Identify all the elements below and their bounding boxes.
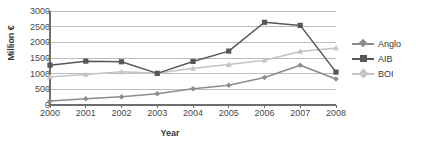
data-point-aib bbox=[333, 70, 338, 75]
data-point-anglo bbox=[226, 82, 232, 88]
x-axis-title: Year bbox=[0, 128, 340, 138]
line-chart-figure: Million € 050010001500200025003000 20002… bbox=[0, 0, 423, 143]
data-point-anglo bbox=[262, 75, 268, 81]
data-point-aib bbox=[226, 49, 231, 54]
data-point-anglo bbox=[119, 94, 125, 100]
x-tick-label: 2003 bbox=[147, 108, 167, 118]
legend-key-aib bbox=[352, 53, 374, 64]
data-point-anglo bbox=[333, 76, 339, 82]
legend-item-anglo[interactable]: Anglo bbox=[352, 36, 422, 51]
x-tick-label: 2002 bbox=[111, 108, 131, 118]
data-point-aib bbox=[155, 71, 160, 76]
data-point-aib bbox=[119, 59, 124, 64]
x-tick-label: 2008 bbox=[326, 108, 346, 118]
data-point-anglo bbox=[83, 96, 89, 102]
data-point-anglo bbox=[47, 98, 53, 104]
x-tick-label: 2000 bbox=[40, 108, 60, 118]
legend-item-boi[interactable]: BOI bbox=[352, 66, 422, 81]
legend-item-aib[interactable]: AIB bbox=[352, 51, 422, 66]
x-tick-label: 2007 bbox=[290, 108, 310, 118]
data-point-aib bbox=[83, 59, 88, 64]
x-tick-label: 2005 bbox=[219, 108, 239, 118]
x-tick-label: 2006 bbox=[254, 108, 274, 118]
data-point-anglo bbox=[297, 62, 303, 68]
data-point-aib bbox=[190, 59, 195, 64]
data-point-anglo bbox=[190, 86, 196, 92]
legend-label-aib: AIB bbox=[378, 54, 393, 64]
x-tick-label: 2001 bbox=[76, 108, 96, 118]
data-point-aib bbox=[47, 63, 52, 68]
x-tick-label: 2004 bbox=[183, 108, 203, 118]
legend-label-anglo: Anglo bbox=[378, 39, 401, 49]
legend-key-boi bbox=[352, 68, 374, 79]
data-point-aib bbox=[262, 20, 267, 25]
data-point-aib bbox=[298, 23, 303, 28]
chart-legend: Anglo AIB BOI bbox=[352, 36, 422, 81]
legend-label-boi: BOI bbox=[378, 69, 394, 79]
legend-key-anglo bbox=[352, 38, 374, 49]
data-point-anglo bbox=[154, 91, 160, 97]
